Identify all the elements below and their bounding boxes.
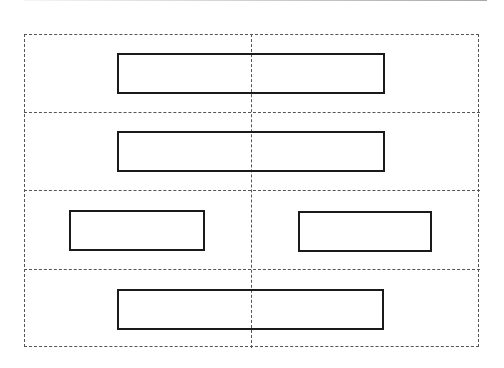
row-3-right-box	[298, 211, 432, 252]
row-1-wide-box	[117, 53, 385, 94]
row-divider-2	[24, 190, 480, 191]
top-edge-line	[24, 0, 487, 1]
row-4-wide-box	[117, 289, 384, 330]
row-divider-1	[24, 112, 480, 113]
row-divider-3	[24, 269, 480, 270]
row-3-left-box	[69, 210, 205, 251]
row-2-wide-box	[117, 131, 385, 172]
